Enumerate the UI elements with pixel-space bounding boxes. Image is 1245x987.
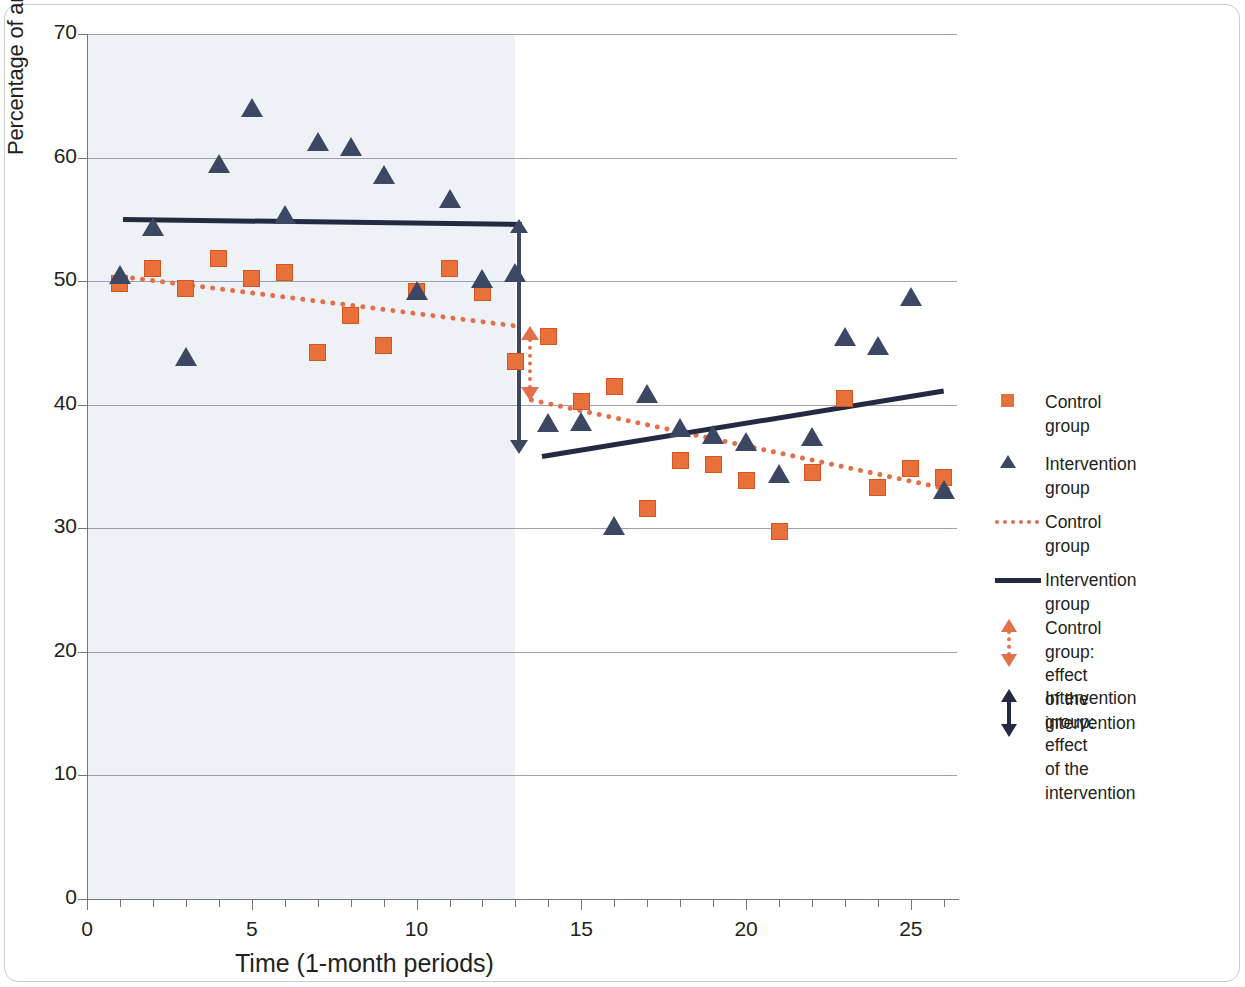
- data-point-intervention-group-26: [933, 480, 955, 499]
- x-tick-mark-5: [252, 899, 253, 910]
- data-point-intervention-group-3: [175, 347, 197, 366]
- gridline-20: [87, 652, 957, 653]
- legend-label: Control group: [1045, 391, 1101, 438]
- gridline-70: [87, 34, 957, 35]
- y-tick-label-0: 0: [25, 885, 77, 909]
- data-point-intervention-group-6: [274, 205, 296, 224]
- data-point-control-group-21: [771, 523, 788, 540]
- x-tick-mark-11: [450, 899, 451, 907]
- data-point-control-group-16: [606, 378, 623, 395]
- y-tick-label-70: 70: [25, 20, 77, 44]
- data-point-intervention-group-4: [208, 154, 230, 173]
- x-tick-mark-22: [812, 899, 813, 907]
- data-point-control-group-24: [869, 479, 886, 496]
- data-point-intervention-group-2: [142, 217, 164, 236]
- y-tick-label-30: 30: [25, 514, 77, 538]
- arrow-shaft: [528, 338, 532, 389]
- y-tick-label-20: 20: [25, 638, 77, 662]
- data-point-control-group-9: [375, 337, 392, 354]
- x-tick-mark-23: [845, 899, 846, 907]
- y-axis-title: Percentage of antimibrobial prescription…: [3, 0, 29, 155]
- x-tick-label-20: 20: [726, 917, 766, 941]
- x-tick-mark-7: [318, 899, 319, 907]
- data-point-control-group-5: [243, 270, 260, 287]
- data-point-intervention-group-19: [702, 425, 724, 444]
- arrow-head-down-icon: [510, 440, 528, 454]
- x-tick-label-0: 0: [67, 917, 107, 941]
- data-point-intervention-group-18: [669, 418, 691, 437]
- y-tick-mark-20: [78, 652, 87, 653]
- arrow-head-down-icon: [1001, 724, 1017, 737]
- x-axis-line: [87, 899, 959, 900]
- x-tick-mark-0: [87, 899, 88, 910]
- x-tick-mark-15: [581, 899, 582, 910]
- solid-line-icon: [995, 578, 1041, 583]
- x-tick-label-10: 10: [397, 917, 437, 941]
- y-tick-label-10: 10: [25, 761, 77, 785]
- y-tick-mark-30: [78, 528, 87, 529]
- data-point-intervention-group-15: [570, 412, 592, 431]
- data-point-intervention-group-12: [471, 269, 493, 288]
- x-tick-mark-10: [417, 899, 418, 910]
- data-point-control-group-25: [902, 460, 919, 477]
- x-tick-label-25: 25: [891, 917, 931, 941]
- square-marker-icon: [1001, 394, 1014, 407]
- arrow-head-up-icon: [521, 326, 539, 340]
- data-point-intervention-group-7: [307, 132, 329, 151]
- data-point-control-group-3: [177, 280, 194, 297]
- x-tick-mark-25: [911, 899, 912, 910]
- legend-label: Control group: [1045, 511, 1101, 558]
- y-tick-label-60: 60: [25, 144, 77, 168]
- dotted-line-icon: [995, 520, 1039, 524]
- x-tick-mark-12: [482, 899, 483, 907]
- data-point-intervention-group-23: [834, 327, 856, 346]
- y-tick-label-40: 40: [25, 391, 77, 415]
- data-point-intervention-group-22: [801, 427, 823, 446]
- x-tick-label-15: 15: [561, 917, 601, 941]
- x-tick-mark-20: [746, 899, 747, 910]
- x-tick-mark-9: [384, 899, 385, 907]
- x-tick-mark-17: [647, 899, 648, 907]
- arrow-head-up-icon: [510, 219, 528, 233]
- data-point-control-group-2: [144, 260, 161, 277]
- x-tick-mark-18: [680, 899, 681, 907]
- data-point-control-group-23: [836, 390, 853, 407]
- figure-frame: 706050403020100 0510152025 Percentage of…: [4, 4, 1240, 982]
- legend-label: Intervention group: [1045, 569, 1136, 616]
- x-tick-mark-24: [878, 899, 879, 907]
- data-point-control-group-4: [210, 250, 227, 267]
- data-point-intervention-group-9: [373, 165, 395, 184]
- gridline-40: [87, 405, 957, 406]
- arrow-head-up-icon: [1001, 619, 1017, 632]
- x-tick-mark-6: [285, 899, 286, 907]
- x-tick-mark-13: [515, 899, 516, 907]
- data-point-intervention-group-24: [867, 336, 889, 355]
- arrow-shaft: [1007, 630, 1011, 656]
- data-point-intervention-group-5: [241, 98, 263, 117]
- solid-double-arrow-icon: [1001, 689, 1017, 737]
- legend-label: Intervention group: effect of the interv…: [1045, 687, 1136, 805]
- data-point-control-group-14: [540, 328, 557, 345]
- y-tick-label-50: 50: [25, 267, 77, 291]
- figure-page: 706050403020100 0510152025 Percentage of…: [0, 0, 1245, 987]
- pre-intervention-shaded-region: [87, 34, 515, 899]
- plot-area: [87, 34, 957, 899]
- data-point-intervention-group-16: [603, 516, 625, 535]
- data-point-control-group-17: [639, 500, 656, 517]
- data-point-intervention-group-14: [537, 413, 559, 432]
- data-point-control-group-15: [573, 393, 590, 410]
- data-point-control-group-19: [705, 456, 722, 473]
- x-tick-mark-3: [186, 899, 187, 907]
- gridline-30: [87, 528, 957, 529]
- x-tick-mark-19: [713, 899, 714, 907]
- data-point-intervention-group-11: [439, 189, 461, 208]
- data-point-control-group-13: [507, 353, 524, 370]
- data-point-control-group-6: [276, 264, 293, 281]
- legend-label: Intervention group: [1045, 453, 1136, 500]
- data-point-intervention-group-10: [406, 281, 428, 300]
- y-axis-line: [87, 34, 88, 900]
- x-tick-mark-2: [153, 899, 154, 907]
- data-point-intervention-group-13: [504, 263, 526, 282]
- y-tick-mark-60: [78, 158, 87, 159]
- data-point-control-group-22: [804, 464, 821, 481]
